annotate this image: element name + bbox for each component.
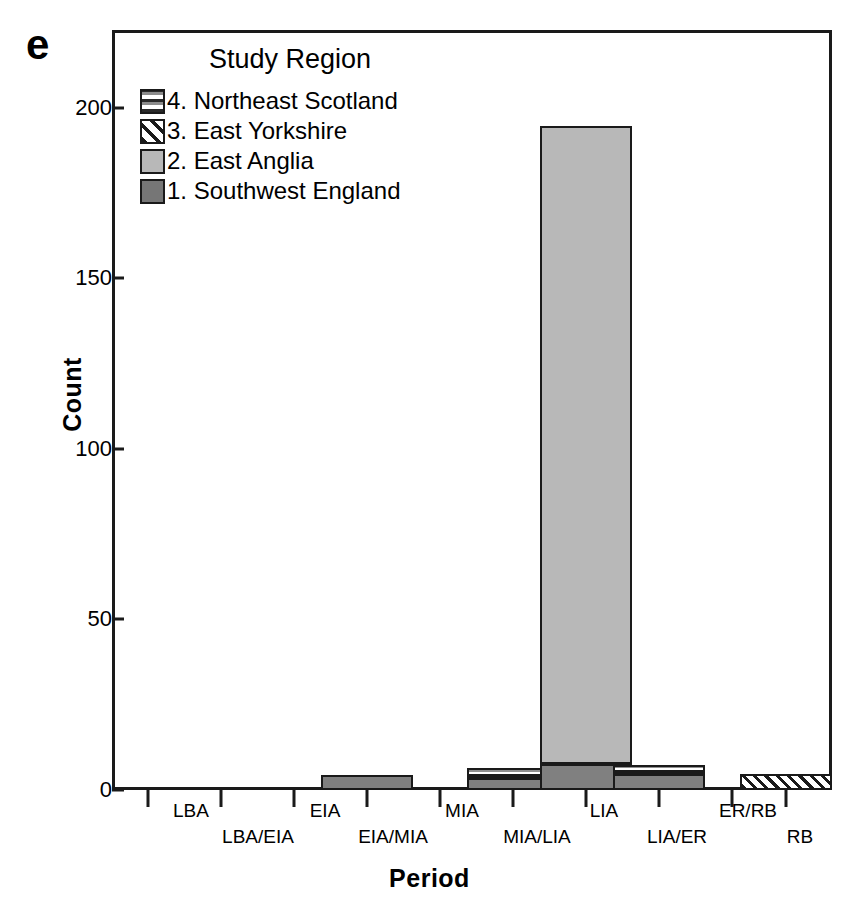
legend-item-label: 1. Southwest England bbox=[167, 177, 401, 205]
legend-item-southwest-england: 1. Southwest England bbox=[140, 177, 470, 205]
bar-segment-east-anglia bbox=[540, 126, 632, 764]
horizontal-stripe-swatch-icon bbox=[140, 89, 165, 114]
legend-item-label: 4. Northeast Scotland bbox=[167, 87, 398, 115]
bar-stack-rb bbox=[740, 774, 832, 790]
legend-item-east-anglia: 2. East Anglia bbox=[140, 147, 470, 175]
bar-segment-northeast-scotland bbox=[613, 765, 705, 774]
light-gray-swatch-icon bbox=[140, 149, 165, 174]
dark-gray-swatch-icon bbox=[140, 179, 165, 204]
bar-stack-eia-mia bbox=[321, 775, 413, 790]
bar-segment-southwest-england bbox=[613, 774, 705, 790]
diagonal-hatch-swatch-icon bbox=[140, 119, 165, 144]
bar-stack-lia bbox=[540, 126, 632, 790]
bar-segment-southwest-england bbox=[321, 775, 413, 790]
bar-segment-east-yorkshire bbox=[740, 774, 832, 790]
legend-item-label: 3. East Yorkshire bbox=[167, 117, 347, 145]
bar-stack-lia-er bbox=[613, 770, 705, 790]
figure-panel-e: e Count 0 50 100 150 200 LBA LBA/EIA EIA… bbox=[0, 0, 859, 913]
legend: Study Region 4. Northeast Scotland 3. Ea… bbox=[140, 44, 470, 207]
legend-item-northeast-scotland: 4. Northeast Scotland bbox=[140, 87, 470, 115]
legend-item-label: 2. East Anglia bbox=[167, 147, 314, 175]
legend-item-east-yorkshire: 3. East Yorkshire bbox=[140, 117, 470, 145]
legend-title: Study Region bbox=[140, 44, 440, 75]
